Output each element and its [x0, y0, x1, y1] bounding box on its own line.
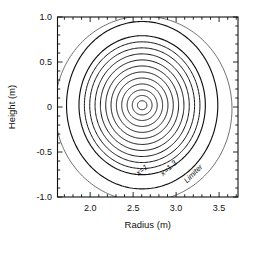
y-tick-label: -1.0 [36, 192, 52, 202]
label-x-1: x=1 [133, 162, 149, 177]
flux-surface-x-0-92 [84, 42, 200, 169]
y-tick-label: 1.0 [39, 12, 52, 22]
x-tick-label: 2.0 [84, 203, 97, 213]
flux-surface-x-0-50 [111, 72, 173, 138]
x-axis-title: Radius (m) [125, 219, 171, 230]
flux-surface-x-0-67 [100, 60, 184, 151]
flux-surface-x-1 [79, 36, 205, 175]
y-axis-title: Height (m) [6, 85, 17, 129]
y-tick-label: -0.5 [36, 147, 52, 157]
label-x-1p3: x=1.3 [158, 158, 179, 178]
x-tick-label: 3.5 [213, 203, 226, 213]
flux-surface-x-0-17 [132, 95, 152, 114]
flux-surface-plot: 2.02.53.03.51.00.50-0.5-1.0Radius (m)Hei… [0, 0, 257, 253]
flux-surface-x-0-75 [95, 54, 189, 157]
flux-surface-x-0-08 [137, 101, 146, 110]
flux-surface-x-0-42 [116, 78, 168, 132]
y-tick-label: 0.5 [39, 57, 52, 67]
y-tick-label: 0 [47, 102, 52, 112]
x-tick-label: 2.5 [127, 203, 140, 213]
figure-container: 2.02.53.03.51.00.50-0.5-1.0Radius (m)Hei… [0, 0, 257, 253]
flux-surface-x-0-25 [127, 90, 157, 121]
x-tick-label: 3.0 [170, 203, 183, 213]
